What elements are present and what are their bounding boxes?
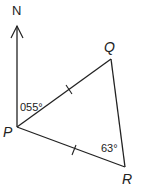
tick-mark-PQ [66,85,72,94]
point-label-Q: Q [104,40,115,54]
diagram-lines [0,0,143,189]
side-PQ [17,59,111,127]
point-label-R: R [122,172,132,186]
angle-R-label: 63° [101,143,118,154]
point-label-P: P [3,125,12,139]
tick-mark-PR [72,145,76,155]
bearing-triangle-diagram: N P Q R 055° 63° [0,0,143,189]
north-label: N [12,4,21,17]
bearing-angle-label: 055° [20,102,43,113]
